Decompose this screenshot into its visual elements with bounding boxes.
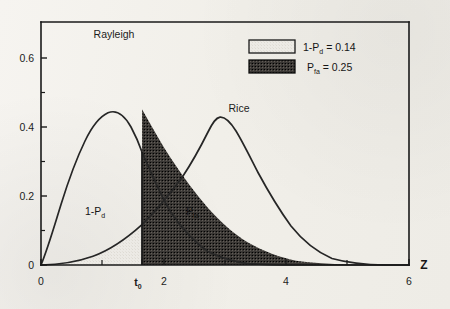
y-tick-label-0: 0: [28, 259, 34, 271]
false-alarm-region-label-base: P: [186, 205, 193, 217]
legend-swatch-miss: [249, 40, 295, 53]
false-alarm-region: [142, 109, 409, 265]
legend-label-miss-base: 1-P: [303, 41, 319, 53]
y-tick-label-04: 0.4: [19, 121, 34, 133]
y-tick-label-06: 0.6: [19, 52, 34, 64]
rice-curve-label: Rice: [228, 102, 249, 114]
legend-label-miss: 1-Pd = 0.14: [303, 41, 356, 55]
legend-label-false-alarm: Pfa = 0.25: [307, 61, 352, 75]
threshold-label-sub: 0: [138, 283, 142, 290]
legend-label-fa-tail: = 0.25: [320, 61, 353, 73]
x-tick-label-4: 4: [283, 275, 289, 287]
chart-legend: 1-Pd = 0.14 Pfa = 0.25: [249, 40, 356, 75]
legend-label-miss-tail: = 0.14: [323, 41, 356, 53]
legend-label-fa-base: P: [307, 61, 314, 73]
miss-region-label-sub: d: [101, 212, 105, 219]
false-alarm-region-label-sub: fa: [193, 212, 199, 219]
miss-region-label: 1-Pd: [85, 205, 105, 219]
x-tick-label-6: 6: [406, 275, 412, 287]
x-tick-label-threshold: t0: [134, 276, 142, 290]
rayleigh-curve-label: Rayleigh: [94, 28, 135, 40]
miss-region-label-base: 1-P: [85, 205, 101, 217]
chart-figure: 0.6 0.4 0.2 0 0 2 4 6 t0 Z Rayleigh Rice…: [0, 0, 450, 309]
chart-svg: 0.6 0.4 0.2 0 0 2 4 6 t0 Z Rayleigh Rice…: [0, 0, 450, 309]
y-axis-ticks: [41, 58, 47, 265]
x-tick-label-0: 0: [38, 275, 44, 287]
legend-swatch-false-alarm: [249, 60, 295, 73]
miss-probability-region: [41, 225, 142, 265]
x-axis-title: Z: [420, 258, 427, 272]
x-tick-label-2: 2: [161, 275, 167, 287]
y-tick-label-02: 0.2: [19, 190, 34, 202]
